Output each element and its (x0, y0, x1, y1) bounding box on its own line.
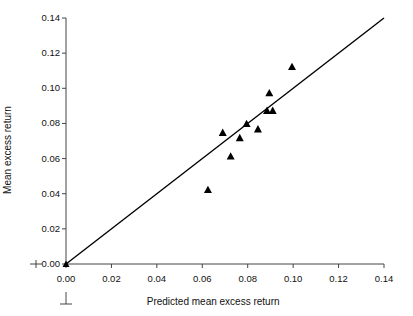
identity-line (66, 18, 384, 264)
x-axis-tick-label: 0.04 (148, 274, 167, 284)
plot-canvas (0, 0, 413, 316)
x-axis-tick-label: 0.00 (57, 274, 76, 284)
scatter-plot-figure: 0.000.020.040.060.080.100.120.14 0.000.0… (0, 0, 413, 316)
x-axis-tick-label: 0.06 (193, 274, 212, 284)
data-point-marker (243, 120, 251, 127)
data-point-marker (227, 152, 235, 159)
x-axis-tick-label: 0.14 (375, 274, 394, 284)
data-point-marker (219, 129, 227, 136)
data-point-marker (254, 125, 262, 132)
y-axis-tick-label: 0.12 (20, 48, 60, 58)
x-axis-tick-label: 0.12 (329, 274, 348, 284)
y-axis-tick-label: 0.06 (20, 154, 60, 164)
data-point-marker (204, 186, 212, 193)
y-axis-tick-label: 0.08 (20, 119, 60, 129)
y-axis-ticks (62, 18, 66, 264)
y-axis-tick-label: 0.04 (20, 189, 60, 199)
x-axis-title: Predicted mean excess return (147, 296, 280, 307)
data-point-marker (288, 63, 296, 70)
data-point-marker (265, 89, 273, 96)
x-axis-tick-label: 0.02 (102, 274, 121, 284)
reference-line (66, 18, 384, 264)
data-point-marker (269, 107, 277, 114)
data-point-markers (63, 63, 297, 267)
x-axis-ticks (66, 264, 384, 268)
y-axis-tick-label: 0.02 (20, 224, 60, 234)
x-axis-tick-label: 0.08 (238, 274, 257, 284)
data-point-marker (236, 134, 244, 141)
y-axis-title: Mean excess return (2, 106, 13, 194)
y-axis-tick-label: 0.00 (20, 259, 60, 269)
y-axis-tick-label: 0.14 (20, 13, 60, 23)
y-axis-tick-label: 0.10 (20, 84, 60, 94)
x-axis-tick-label: 0.10 (284, 274, 303, 284)
